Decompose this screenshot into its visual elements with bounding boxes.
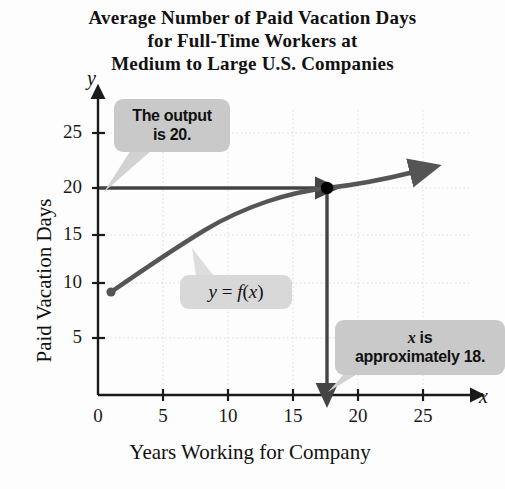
callout-function-label: y = f(x): [180, 275, 292, 309]
function-curve-extension: [327, 172, 414, 188]
function-label-text: y = f(x): [208, 281, 263, 302]
x-tick-label-0: 0: [78, 405, 118, 427]
x-tick-label-5: 5: [143, 405, 183, 427]
callout-x-approximation: x is approximately 18.: [335, 320, 505, 375]
y-axis-title: Paid Vacation Days: [32, 161, 57, 401]
x-tick-label-25: 25: [403, 405, 443, 427]
x-axis-title: Years Working for Company: [80, 440, 420, 465]
curve-start-point: [106, 287, 115, 296]
callout-x-line-2: approximately 18.: [340, 347, 500, 366]
callout-output-line-2: is 20.: [120, 125, 224, 144]
figure-canvas: Average Number of Paid Vacation Days for…: [0, 0, 505, 489]
callout-x-line-1: x is: [340, 328, 500, 347]
x-tick-label-10: 10: [208, 405, 248, 427]
callout-tail-function: [192, 248, 214, 276]
y-axis-symbol: y: [87, 67, 96, 90]
callout-tail-output: [104, 150, 152, 192]
highlight-point: [321, 182, 333, 194]
x-axis-symbol: x: [479, 385, 488, 408]
x-tick-label-20: 20: [338, 405, 378, 427]
callout-output-value: The output is 20.: [114, 99, 230, 152]
callout-output-line-1: The output: [120, 106, 224, 125]
x-tick-label-15: 15: [273, 405, 313, 427]
y-tick-label-25: 25: [42, 121, 82, 143]
